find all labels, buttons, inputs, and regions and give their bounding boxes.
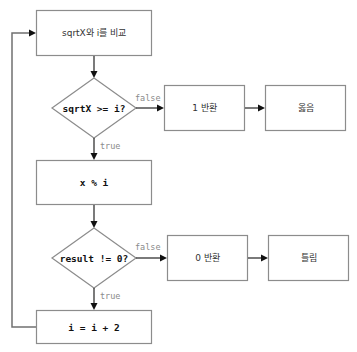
arrowhead-icon [29,30,36,37]
node-wrong-label: 틀림 [301,252,317,263]
edge-cond-sqrt-true: true [91,138,121,160]
node-mod[interactable]: x % i [37,161,152,205]
arrowhead-icon [157,105,164,112]
arrowhead-icon [91,303,98,310]
node-compare-label: sqrtX와 i를 비교 [62,27,126,38]
node-mod-label: x % i [80,177,109,188]
node-cond-result[interactable]: result != 0? [52,228,136,288]
edge-return-zero-to-wrong [248,255,268,262]
edge-compare-to-cond-sqrt [91,56,98,78]
node-correct[interactable]: 옳음 [266,86,346,131]
edge-cond-result-false: false [135,242,167,262]
flowchart-canvas: sqrtX와 i를 비교 sqrtX >= i? false 1 반환 옳음 t… [0,0,357,352]
edge-label-true: true [100,291,120,301]
node-increment[interactable]: i = i + 2 [37,311,152,344]
edge-cond-sqrt-false: false [135,93,164,112]
arrowhead-icon [261,255,268,262]
node-cond-result-label: result != 0? [60,253,129,264]
node-correct-label: 옳음 [298,103,314,113]
node-return-one[interactable]: 1 반환 [165,86,245,131]
arrowhead-icon [91,71,98,78]
node-compare[interactable]: sqrtX와 i를 비교 [37,11,152,56]
edge-label-false: false [135,242,161,252]
node-return-zero-label: 0 반환 [195,252,220,263]
edge-label-true: true [100,141,120,151]
arrowhead-icon [91,221,98,228]
edge-cond-result-true: true [91,288,121,310]
node-return-zero[interactable]: 0 반환 [168,236,248,281]
node-return-one-label: 1 반환 [192,102,217,113]
node-increment-label: i = i + 2 [68,322,119,333]
node-wrong[interactable]: 틀림 [269,236,349,281]
edge-mod-to-cond-result [91,205,98,228]
arrowhead-icon [258,105,265,112]
edge-label-false: false [135,93,161,103]
edge-increment-loop [12,30,37,328]
arrowhead-icon [160,255,167,262]
edge-return-one-to-correct [245,105,265,112]
node-cond-sqrt[interactable]: sqrtX >= i? [52,78,136,138]
node-cond-sqrt-label: sqrtX >= i? [63,103,126,114]
arrowhead-icon [91,153,98,160]
